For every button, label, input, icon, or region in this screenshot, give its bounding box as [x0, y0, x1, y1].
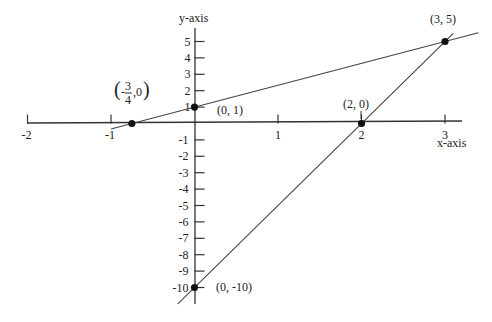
y-tick-label: -9	[179, 264, 189, 278]
plot-points	[128, 38, 448, 291]
axes	[27, 28, 462, 304]
point-label-2-0: (2, 0)	[343, 97, 369, 111]
y-tick-label: -6	[179, 215, 189, 229]
x-tick-label: 1	[275, 128, 281, 142]
label-rest: ,0	[133, 85, 142, 99]
graph-canvas: -2-1123 54321-1-2-3-4-5-6-7-8-9-10 y-axi…	[0, 0, 492, 322]
data-point	[191, 284, 198, 291]
fraction-numerator: 3	[125, 79, 131, 93]
y-tick-label: 3	[185, 67, 191, 81]
y-tick-label: 1	[185, 100, 191, 114]
y-tick-label: 2	[185, 84, 191, 98]
y-tick-label: -8	[179, 248, 189, 262]
data-point	[441, 38, 448, 45]
data-point	[358, 120, 365, 127]
y-axis-title: y-axis	[179, 11, 209, 25]
right-paren: )	[143, 78, 150, 101]
plot-lines	[111, 33, 478, 304]
x-tick-label: -2	[22, 128, 32, 142]
y-tick-label: -4	[179, 182, 189, 196]
point-label-0-neg10: (0, -10)	[216, 280, 252, 294]
y-tick-label: -3	[179, 166, 189, 180]
y-tick-labels: 54321-1-2-3-4-5-6-7-8-9-10	[173, 35, 191, 295]
x-tick-label: 2	[359, 128, 365, 142]
y-tick-label: -10	[173, 281, 189, 295]
plot-line-line-1	[111, 33, 478, 129]
x-tick-labels: -2-1123	[22, 128, 449, 142]
y-tick-label: -2	[179, 149, 189, 163]
x-tick-label: -1	[105, 128, 115, 142]
y-tick-label: -5	[179, 199, 189, 213]
y-tick-label: -1	[179, 133, 189, 147]
x-axis-line	[27, 121, 462, 123]
fraction-denominator: 4	[125, 93, 131, 107]
plot-line-line-2	[178, 33, 454, 304]
data-point	[128, 120, 135, 127]
data-point	[191, 104, 198, 111]
coordinate-plane: -2-1123 54321-1-2-3-4-5-6-7-8-9-10 y-axi…	[0, 0, 492, 322]
y-ticks	[195, 42, 205, 288]
point-label-0-1: (0, 1)	[217, 103, 243, 117]
y-tick-label: 5	[185, 35, 191, 49]
left-paren: (	[114, 78, 121, 101]
y-tick-label: -7	[179, 231, 189, 245]
x-axis-title: x-axis	[437, 136, 467, 150]
point-label-3-5: (3, 5)	[430, 12, 456, 26]
point-label-neg34-0: ( - 3 4 ,0 )	[114, 78, 150, 107]
y-tick-label: 4	[185, 51, 191, 65]
